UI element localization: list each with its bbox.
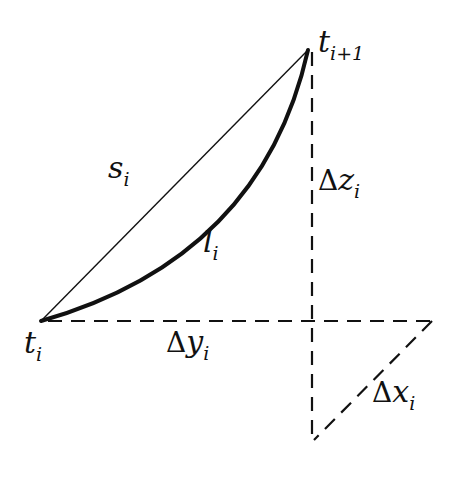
label-delta-y: Δyi <box>166 324 209 364</box>
chord-s-line <box>41 50 308 321</box>
segment-length-diagram: ti+1 ti si li Δzi Δyi Δxi <box>0 0 454 480</box>
label-t-i-plus-1: ti+1 <box>318 24 364 64</box>
label-t-i: ti <box>24 325 42 365</box>
label-s-i: si <box>108 150 129 190</box>
label-l-i: li <box>203 224 219 264</box>
label-delta-x: Δxi <box>372 374 415 414</box>
label-delta-z: Δzi <box>318 162 360 202</box>
